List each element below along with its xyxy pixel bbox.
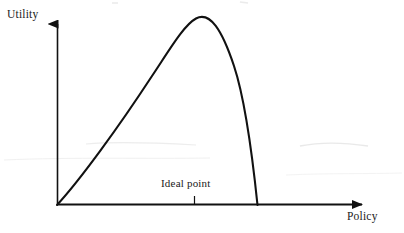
utility-policy-figure: Utility Policy Ideal point	[0, 0, 404, 233]
x-axis-label: Policy	[347, 210, 378, 222]
y-axis-label: Utility	[7, 8, 38, 20]
figure-canvas	[0, 0, 404, 233]
utility-curve	[57, 17, 258, 205]
scan-artifacts	[4, 2, 402, 175]
ideal-point-label: Ideal point	[161, 177, 211, 189]
